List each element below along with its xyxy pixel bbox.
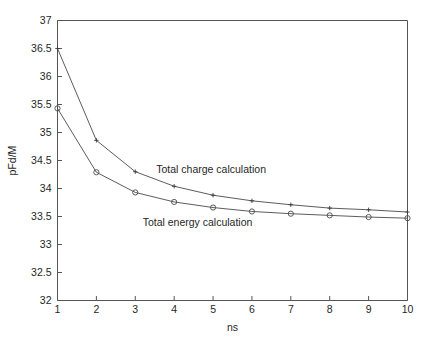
x-tick-label: 3 [132, 303, 138, 315]
y-tick-label: 37 [40, 14, 52, 26]
x-tick-label: 7 [288, 303, 294, 315]
y-tick-label: 34 [40, 182, 52, 194]
y-tick-label: 36.5 [31, 42, 52, 54]
y-tick-label: 36 [40, 70, 52, 82]
line-chart: 3232.53333.53434.53535.53636.537 1234567… [0, 0, 428, 342]
x-tick-label: 2 [93, 303, 99, 315]
x-axis-label: ns [227, 321, 238, 333]
y-tick-label: 32 [40, 294, 52, 306]
y-tick-label: 34.5 [31, 154, 52, 166]
x-tick-label: 4 [171, 303, 177, 315]
x-tick-label: 6 [249, 303, 255, 315]
y-tick-label: 35.5 [31, 98, 52, 110]
y-tick-label: 32.5 [31, 266, 52, 278]
chart-figure: 3232.53333.53434.53535.53636.537 1234567… [0, 0, 428, 342]
x-tick-label: 5 [210, 303, 216, 315]
y-tick-label: 33.5 [31, 210, 52, 222]
y-tick-label: 35 [40, 126, 52, 138]
y-tick-label: 33 [40, 238, 52, 250]
x-tick-label: 9 [366, 303, 372, 315]
y-axis-label: pFd/M [6, 146, 18, 176]
x-tick-label: 10 [402, 303, 414, 315]
x-tick-label: 8 [327, 303, 333, 315]
series-annotation-2: Total energy calculation [143, 216, 253, 228]
x-tick-label: 1 [55, 303, 61, 315]
series-annotation-1: Total charge calculation [156, 163, 266, 175]
